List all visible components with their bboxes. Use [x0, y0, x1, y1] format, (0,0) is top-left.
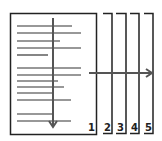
- page-number-2: 2: [104, 122, 111, 133]
- reading-order-diagram: 1 2 3 4 5: [0, 0, 162, 141]
- vertical-reading-arrow: [49, 18, 57, 127]
- horizontal-page-arrow: [89, 69, 152, 77]
- page-number-5: 5: [145, 122, 152, 133]
- page-number-1: 1: [88, 122, 95, 133]
- page-number-3: 3: [117, 122, 124, 133]
- text-lines: [17, 26, 81, 121]
- page-number-4: 4: [131, 122, 138, 133]
